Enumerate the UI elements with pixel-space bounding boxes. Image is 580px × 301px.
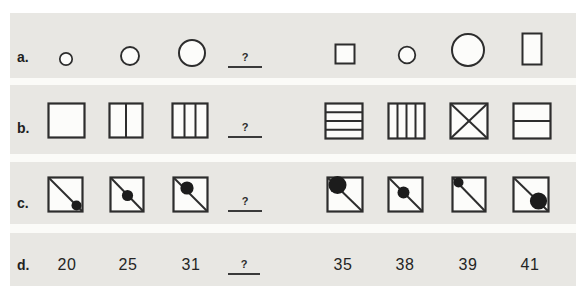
option-b2-4-vertical-bands-icon <box>387 102 426 140</box>
page: a. ? b. ? <box>0 0 580 301</box>
medium-circle-icon <box>119 45 141 67</box>
answer-blank-a: ? <box>228 50 262 68</box>
large-circle-icon <box>177 38 207 68</box>
option-a2-small-circle-icon <box>397 45 417 65</box>
square-3-vertical-parts-icon <box>171 102 209 139</box>
option-d4-number: 41 <box>515 256 545 274</box>
answer-blank-b: ? <box>228 120 262 138</box>
option-a4-tall-rectangle-icon <box>521 32 543 66</box>
option-b4-2-horizontal-bands-icon <box>512 102 552 140</box>
row-separator <box>10 78 576 85</box>
row-a-label: a. <box>17 49 29 65</box>
row-b-label: b. <box>17 120 29 136</box>
square-diagonal-large-dot-top-left-icon <box>172 176 209 213</box>
square-diagonal-medium-dot-center-icon <box>109 176 145 213</box>
row-separator <box>10 224 576 233</box>
row-d-label: d. <box>17 257 29 273</box>
question-mark: ? <box>241 259 248 273</box>
option-a1-small-square-icon <box>334 43 356 65</box>
empty-square-icon <box>47 102 86 139</box>
option-c1-extra-large-dot-top-left-icon <box>326 176 364 213</box>
stimulus-number-3: 31 <box>176 256 206 274</box>
stimulus-number-2: 25 <box>113 256 143 274</box>
option-c2-medium-dot-center-icon <box>387 176 424 213</box>
square-2-vertical-parts-icon <box>108 102 144 139</box>
option-d2-number: 38 <box>390 256 420 274</box>
option-a3-large-circle-icon <box>450 32 486 68</box>
option-b1-4-horizontal-bands-icon <box>324 102 364 140</box>
answer-blank-d: ? <box>228 257 260 275</box>
stimulus-number-1: 20 <box>52 256 82 274</box>
option-d3-number: 39 <box>453 256 483 274</box>
square-diagonal-small-dot-bottom-right-icon <box>47 176 84 213</box>
option-c3-small-dot-top-left-icon <box>451 176 487 213</box>
question-mark: ? <box>242 122 249 136</box>
option-c4-large-dot-bottom-right-icon <box>512 176 550 213</box>
question-mark: ? <box>242 196 249 210</box>
option-d1-number: 35 <box>328 256 358 274</box>
option-b3-diagonal-cross-icon <box>449 102 489 140</box>
row-separator <box>10 154 576 162</box>
answer-blank-c: ? <box>228 194 262 212</box>
puzzle-panel <box>10 13 576 286</box>
question-mark: ? <box>242 52 249 66</box>
small-circle-icon <box>58 51 74 67</box>
row-c-label: c. <box>17 195 29 211</box>
